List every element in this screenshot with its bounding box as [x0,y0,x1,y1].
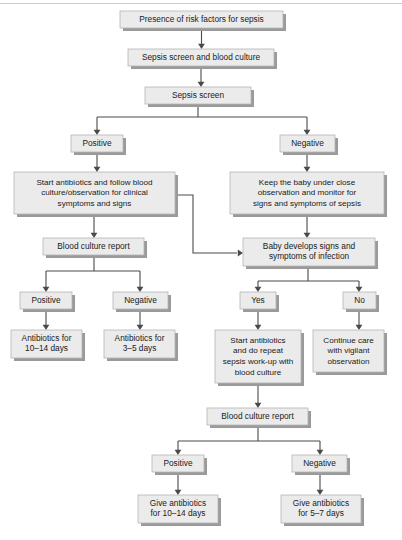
connector-e-develops-to-no [356,287,363,292]
connector-e-report1-split [46,255,140,287]
node-label-line: Start antibiotics [230,336,285,345]
node-start-antibiotics-repeat[interactable]: Start antibioticsand do repeatsepsis wor… [215,330,304,386]
node-label-line: for 10–14 days [151,508,206,518]
arrow-head-down-icon [304,167,311,172]
node-label-line: observation [328,357,370,366]
connector-e-screen-to-positive [94,130,101,135]
arrow-head-down-icon [255,403,262,408]
connector-line [178,425,320,450]
connector-e-develops-to-yes [255,287,262,292]
node-label-line: and do repeat [233,346,284,355]
node-antibiotics-10-14[interactable]: Antibiotics for10–14 days [11,330,85,361]
node-label-line: Negative [291,138,324,148]
node-keep-baby-observation[interactable]: Keep the baby under closeobservation and… [230,172,387,217]
connector-e-finalneg-to-give [317,472,324,495]
nodes-layer: Presence of risk factors for sepsisSepsi… [11,11,387,526]
arrow-head-down-icon [255,287,262,292]
arrow-head-down-icon [94,130,101,135]
node-label-line: observation and monitor for [258,188,357,197]
node-label-line: for 5–7 days [298,508,344,518]
connector-e-develops-split [258,266,359,287]
node-label-line: Blood culture report [57,241,130,251]
connector-e-start2-to-report2 [255,383,262,408]
flowchart-diagram: Presence of risk factors for sepsisSepsi… [0,0,402,540]
node-label-line: Give antibiotics [150,498,206,508]
connector-line [46,255,140,287]
node-label-line: Yes [251,295,265,305]
node-label-line: sepsis work-up with [223,357,294,366]
connector-e-report2-to-neg [317,450,324,455]
node-give-antibiotics-5-7[interactable]: Give antibioticsfor 5–7 days [281,495,364,526]
node-label-line: blood culture [235,368,282,377]
node-label-line: symptoms of infection [269,251,350,261]
connector-e-screen-split [97,104,307,130]
node-label-line: Keep the baby under close [259,178,356,187]
node-label-line: signs and symptoms of sepsis [253,199,361,208]
node-label-line: Positive [31,295,60,305]
node-label-line: Blood culture report [221,411,294,421]
arrow-head-right-icon [238,250,243,257]
node-blood-culture-report-1[interactable]: Blood culture report [43,238,147,258]
arrow-head-down-icon [317,450,324,455]
node-signs-yes[interactable]: Yes [240,292,279,312]
connector-line [97,104,307,130]
connector-e-screenculture-to-screen [198,66,205,87]
node-culture-positive[interactable]: Positive [20,292,75,312]
connector-line [175,195,237,253]
node-label-line: Positive [82,138,111,148]
node-screen-negative[interactable]: Negative [280,135,338,155]
connector-e-pos-to-ab1014 [43,309,50,330]
connector-e-report2-split [178,425,320,450]
arrow-head-down-icon [304,233,311,238]
node-label-line: Antibiotics for [22,333,72,343]
node-final-positive[interactable]: Positive [152,455,207,475]
arrow-head-down-icon [356,287,363,292]
arrow-head-down-icon [43,287,50,292]
node-culture-negative[interactable]: Negative [113,292,171,312]
node-start-antibiotics-follow[interactable]: Start antibiotics and follow bloodcultur… [14,172,178,217]
arrow-head-down-icon [198,44,205,49]
node-sepsis-screen[interactable]: Sepsis screen [145,87,254,107]
connector-e-keep-to-develops [304,214,311,238]
node-label-line: Positive [163,458,192,468]
node-label-line: 10–14 days [25,343,68,353]
node-sepsis-screen-blood-culture[interactable]: Sepsis screen and blood culture [128,49,277,69]
node-signs-no[interactable]: No [343,292,379,312]
connector-e-screen-to-negative [304,130,311,135]
connector-e-report2-to-pos [175,450,182,455]
arrow-head-down-icon [137,287,144,292]
node-label-line: Start antibiotics and follow blood [36,178,152,187]
node-label-line: with vigilant [327,346,371,355]
node-label-line: Sepsis screen and blood culture [142,52,260,62]
connector-e-start-to-culture-report [91,214,98,238]
node-screen-positive[interactable]: Positive [71,135,126,155]
node-label-line: No [354,295,365,305]
node-label-line: Antibiotics for [115,333,165,343]
node-antibiotics-3-5[interactable]: Antibiotics for3–5 days [104,330,178,361]
arrow-head-down-icon [137,325,144,330]
connector-e-neg-to-ab35 [137,309,144,330]
arrow-head-down-icon [198,82,205,87]
flowchart-canvas: Presence of risk factors for sepsisSepsi… [0,0,402,540]
arrow-head-down-icon [255,325,262,330]
node-label-line: Baby develops signs and [263,241,356,251]
node-label-line: symptoms and signs [58,199,132,208]
node-blood-culture-report-2[interactable]: Blood culture report [207,408,311,428]
arrow-head-down-icon [356,325,363,330]
connector-e-report1-to-pos [43,287,50,292]
node-risk-factors[interactable]: Presence of risk factors for sepsis [120,11,286,31]
node-label-line: Give antibiotics [293,498,349,508]
node-continue-care[interactable]: Continue carewith vigilantobservation [313,330,387,375]
connector-e-report1-to-neg [137,287,144,292]
node-give-antibiotics-10-14[interactable]: Give antibioticsfor 10–14 days [138,495,221,526]
node-baby-develops-signs[interactable]: Baby develops signs andsymptoms of infec… [243,238,378,269]
connector-e-yes-to-start2 [255,309,262,330]
node-label-line: Negative [303,458,336,468]
node-label-line: Presence of risk factors for sepsis [139,14,264,24]
arrow-head-down-icon [43,325,50,330]
node-final-negative[interactable]: Negative [292,455,350,475]
connector-e-finalpos-to-give [175,472,182,495]
connector-e-no-to-continue [356,309,363,330]
node-label-line: Continue care [323,336,374,345]
arrow-head-down-icon [91,233,98,238]
